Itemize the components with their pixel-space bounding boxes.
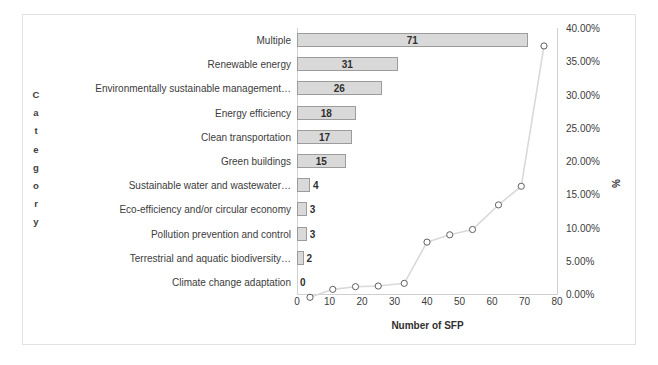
percent-tick-label: 15.00% bbox=[566, 189, 600, 200]
percent-tick-label: 40.00% bbox=[566, 23, 600, 34]
bar-value-label: 3 bbox=[310, 228, 316, 239]
percent-tick-label: 20.00% bbox=[566, 156, 600, 167]
bar[interactable] bbox=[297, 251, 304, 265]
category-label: Climate change adaptation bbox=[172, 276, 291, 287]
category-axis-title-letter: y bbox=[28, 213, 44, 231]
category-row: Renewable energy31 bbox=[297, 52, 557, 76]
bar-value-label: 3 bbox=[310, 204, 316, 215]
bar[interactable] bbox=[297, 154, 346, 168]
category-row: Energy efficiency18 bbox=[297, 101, 557, 125]
x-axis-line bbox=[297, 294, 558, 295]
category-row: Terrestrial and aquatic biodiversity…2 bbox=[297, 246, 557, 270]
percent-tick-label: 5.00% bbox=[566, 255, 594, 266]
category-label: Multiple bbox=[257, 35, 291, 46]
percent-tick-label: 30.00% bbox=[566, 89, 600, 100]
category-label: Renewable energy bbox=[208, 59, 291, 70]
x-tick-label: 50 bbox=[454, 296, 465, 307]
category-row: Climate change adaptation0 bbox=[297, 270, 557, 294]
x-tick-label: 30 bbox=[389, 296, 400, 307]
x-tick-label: 80 bbox=[551, 296, 562, 307]
category-axis-title: Category bbox=[28, 86, 44, 232]
percent-axis-title: % bbox=[611, 179, 622, 188]
percent-tick-label: 10.00% bbox=[566, 222, 600, 233]
category-axis-title-letter: t bbox=[28, 122, 44, 140]
category-row: Green buildings15 bbox=[297, 149, 557, 173]
category-row: Pollution prevention and control3 bbox=[297, 221, 557, 245]
secondary-axis-line bbox=[557, 28, 558, 294]
category-axis-title-letter: e bbox=[28, 141, 44, 159]
category-label: Eco-efficiency and/or circular economy bbox=[119, 204, 291, 215]
bar-value-label: 4 bbox=[313, 180, 319, 191]
category-axis-title-letter: o bbox=[28, 177, 44, 195]
category-axis-title-letter: C bbox=[28, 86, 44, 104]
category-label: Green buildings bbox=[221, 155, 291, 166]
category-axis-title-letter: a bbox=[28, 104, 44, 122]
category-row: Sustainable water and wastewater…4 bbox=[297, 173, 557, 197]
category-label: Energy efficiency bbox=[215, 107, 291, 118]
pareto-chart: Category Multiple71Renewable energy31Env… bbox=[0, 0, 658, 365]
x-tick-label: 70 bbox=[519, 296, 530, 307]
bar[interactable] bbox=[297, 81, 382, 95]
x-tick-label: 0 bbox=[294, 296, 300, 307]
percent-tick-label: 25.00% bbox=[566, 122, 600, 133]
category-label: Sustainable water and wastewater… bbox=[129, 180, 291, 191]
x-tick-label: 20 bbox=[356, 296, 367, 307]
bar[interactable] bbox=[297, 130, 352, 144]
x-axis-title: Number of SFP bbox=[297, 320, 558, 331]
percent-tick-label: 35.00% bbox=[566, 56, 600, 67]
category-label: Pollution prevention and control bbox=[151, 228, 291, 239]
bar[interactable] bbox=[297, 178, 310, 192]
category-label: Clean transportation bbox=[201, 131, 291, 142]
plot-area: Multiple71Renewable energy31Environmenta… bbox=[297, 28, 557, 294]
category-row: Eco-efficiency and/or circular economy3 bbox=[297, 197, 557, 221]
percent-line-marker[interactable] bbox=[307, 294, 313, 300]
x-tick-label: 40 bbox=[421, 296, 432, 307]
x-tick-label: 10 bbox=[324, 296, 335, 307]
bar[interactable] bbox=[297, 106, 356, 120]
category-label: Terrestrial and aquatic biodiversity… bbox=[130, 252, 291, 263]
category-label: Environmentally sustainable management… bbox=[95, 83, 291, 94]
category-row: Multiple71 bbox=[297, 28, 557, 52]
category-axis-title-letter: r bbox=[28, 195, 44, 213]
x-tick-label: 60 bbox=[486, 296, 497, 307]
bar-value-label: 2 bbox=[307, 252, 313, 263]
category-row: Environmentally sustainable management…2… bbox=[297, 76, 557, 100]
percent-tick-label: 0.00% bbox=[566, 289, 594, 300]
bar-value-label: 0 bbox=[300, 276, 306, 287]
category-row: Clean transportation17 bbox=[297, 125, 557, 149]
category-axis-title-letter: g bbox=[28, 159, 44, 177]
bar[interactable] bbox=[297, 202, 307, 216]
bar[interactable] bbox=[297, 57, 398, 71]
bar[interactable] bbox=[297, 227, 307, 241]
bar[interactable] bbox=[297, 33, 528, 47]
